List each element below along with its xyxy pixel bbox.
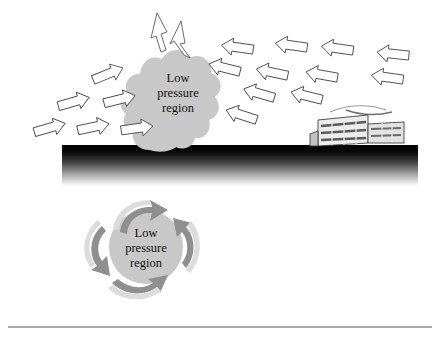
outflow-arrow-up-left xyxy=(151,13,167,52)
inflow-arrow-r1 xyxy=(220,37,254,58)
inflow-arrow-l4 xyxy=(56,89,91,114)
inflow-arrow-r10 xyxy=(289,84,324,108)
inflow-arrow-l1 xyxy=(32,115,67,140)
upper-label-line-3: region xyxy=(162,101,195,115)
spiral-arrow-left xyxy=(84,220,110,276)
upper-label-line-1: Low xyxy=(167,71,190,85)
figure-container: Low pressure region xyxy=(0,0,440,343)
lower-label-line-2: pressure xyxy=(125,241,167,255)
upper-label-line-2: pressure xyxy=(157,86,199,100)
inflow-arrow-r4 xyxy=(376,44,410,64)
inflow-arrow-r8 xyxy=(370,67,404,88)
office-building xyxy=(310,106,404,146)
inflow-arrow-r3 xyxy=(320,38,354,59)
inflow-arrow-r11 xyxy=(224,102,260,128)
inflow-arrow-r6 xyxy=(255,61,290,84)
inflow-arrow-l6 xyxy=(90,60,126,88)
inflow-arrow-r9 xyxy=(241,81,276,106)
ground-band xyxy=(62,145,418,186)
lower-label-line-1: Low xyxy=(135,226,158,240)
inflow-arrow-r2 xyxy=(274,35,308,56)
inflow-arrow-r7 xyxy=(304,64,338,86)
lower-label-line-3: region xyxy=(130,256,163,270)
diagram-canvas: Low pressure region xyxy=(0,0,440,343)
inflow-arrow-l2 xyxy=(76,115,111,138)
